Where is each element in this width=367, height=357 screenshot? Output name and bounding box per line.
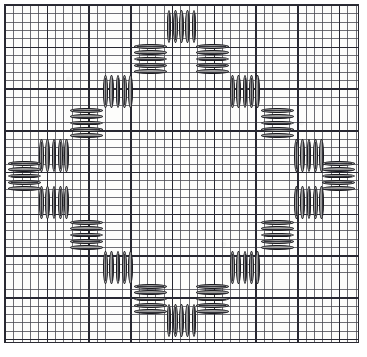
stitch-block-right-centre-horizontal (322, 160, 355, 192)
stitch-block-upper-right-horizontal (261, 107, 294, 139)
stitch-seam (264, 117, 292, 118)
stitch-seam (199, 305, 227, 306)
stitch-seam (137, 59, 165, 60)
stitch-seam (11, 176, 39, 177)
stitch-seam (73, 110, 101, 111)
stitch-block-right-upper-vertical (293, 139, 325, 172)
stitch-block-upper-right-vertical (229, 75, 261, 108)
stitch-seam (325, 170, 353, 171)
stitch-seam (175, 307, 176, 335)
stitch-seam (137, 293, 165, 294)
stitch-block-top-left-horizontal (134, 43, 167, 75)
stitch-seam (54, 142, 55, 170)
stitch-seam (199, 286, 227, 287)
stitch-seam (325, 176, 353, 177)
stitch-seam (264, 235, 292, 236)
stitch-seam (264, 136, 292, 137)
stitch-seam (73, 136, 101, 137)
stitch-seam (118, 78, 119, 106)
stitch-seam (60, 189, 61, 217)
stitch-seam (112, 78, 113, 106)
stitch-seam (199, 53, 227, 54)
stitch-seam (124, 254, 125, 282)
stitch-seam (137, 72, 165, 73)
stitch-seam (194, 13, 195, 41)
grid-major-lines (5, 5, 358, 342)
stitch-seam (232, 78, 233, 106)
stitch-seam (48, 189, 49, 217)
stitch-seam (112, 254, 113, 282)
stitch-seam (73, 235, 101, 236)
stitch-seam (325, 189, 353, 190)
stitch-seam (137, 299, 165, 300)
stitch-seam (137, 305, 165, 306)
stitch-seam (182, 13, 183, 41)
stitch-seam (325, 163, 353, 164)
stitch-block-top-centre-vertical (166, 10, 197, 43)
stitch-seam (105, 254, 106, 282)
stitch-seam (169, 307, 170, 335)
stitch-seam (245, 254, 246, 282)
stitch-seam (188, 307, 189, 335)
stitch-seam (315, 142, 316, 170)
stitch-seam (11, 163, 39, 164)
stitch-seam (182, 307, 183, 335)
stitch-seam (131, 78, 132, 106)
stitch-seam (264, 229, 292, 230)
stitch-seam (258, 254, 259, 282)
stitch-seam (137, 312, 165, 313)
stitch-seam (245, 78, 246, 106)
stitch-seam (11, 189, 39, 190)
stitch-seam (309, 189, 310, 217)
stitch-seam (73, 129, 101, 130)
stitch-block-bottom-right-horizontal (196, 283, 229, 315)
stitch-seam (296, 189, 297, 217)
stitch-seam (264, 241, 292, 242)
stitch-seam (199, 65, 227, 66)
stitch-seam (124, 78, 125, 106)
stitch-seam (48, 142, 49, 170)
stitch-seam (199, 312, 227, 313)
stitch-block-left-upper-vertical (38, 139, 70, 172)
stitch-seam (41, 189, 42, 217)
stitch-block-right-lower-vertical (293, 186, 325, 219)
stitch-seam (264, 129, 292, 130)
stitch-seam (137, 46, 165, 47)
stitch-seam (73, 229, 101, 230)
stitch-block-lower-right-vertical (229, 251, 261, 284)
stitch-seam (137, 53, 165, 54)
stitch-seam (199, 72, 227, 73)
stitch-seam (105, 78, 106, 106)
stitch-block-upper-left-horizontal (70, 107, 103, 139)
stitch-block-left-lower-vertical (38, 186, 70, 219)
stitch-block-bottom-centre-vertical (166, 304, 197, 337)
stitch-seam (188, 13, 189, 41)
stitch-chart-figure (0, 0, 367, 357)
stitch-seam (264, 110, 292, 111)
stitch-seam (73, 222, 101, 223)
stitch-seam (199, 46, 227, 47)
stitch-seam (325, 182, 353, 183)
stitch-seam (41, 142, 42, 170)
stitch-seam (54, 189, 55, 217)
stitch-seam (264, 222, 292, 223)
stitch-seam (199, 293, 227, 294)
stitch-seam (137, 65, 165, 66)
stitch-seam (199, 59, 227, 60)
stitch-seam (118, 254, 119, 282)
stitch-seam (73, 117, 101, 118)
stitch-block-lower-left-vertical (102, 251, 134, 284)
stitch-seam (232, 254, 233, 282)
stitch-seam (67, 189, 68, 217)
stitch-block-top-right-horizontal (196, 43, 229, 75)
stitch-seam (60, 142, 61, 170)
stitch-block-upper-left-vertical (102, 75, 134, 108)
stitch-seam (251, 78, 252, 106)
stitch-seam (239, 78, 240, 106)
stitch-seam (169, 13, 170, 41)
stitch-seam (303, 142, 304, 170)
stitch-seam (67, 142, 68, 170)
stitch-seam (175, 13, 176, 41)
stitch-seam (322, 189, 323, 217)
stitch-seam (303, 189, 304, 217)
